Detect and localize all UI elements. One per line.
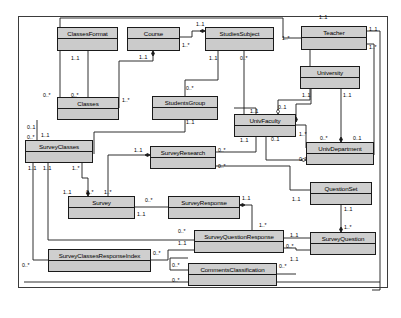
multiplicity-label: 1..1 xyxy=(290,256,298,262)
uml-class-attributes-compartment xyxy=(58,39,117,50)
multiplicity-label: 1..* xyxy=(282,35,289,41)
uml-association-e-surveyresearch-right2 xyxy=(216,166,310,190)
multiplicity-label: 0..1 xyxy=(271,136,279,142)
multiplicity-label: 0..* xyxy=(279,263,286,269)
multiplicity-label: 0..* xyxy=(218,163,225,169)
uml-class-title: ClassesFormat xyxy=(58,28,117,39)
multiplicity-label: 1..* xyxy=(72,165,79,171)
multiplicity-label: 1..1 xyxy=(186,119,194,125)
uml-association-e-surveyclasses-resp-idx xyxy=(33,163,48,260)
multiplicity-label: 0..1 xyxy=(27,124,35,130)
multiplicity-label: 1..1 xyxy=(196,21,204,27)
uml-class-attributes-compartment xyxy=(301,78,359,88)
multiplicity-label: 1..1 xyxy=(250,108,258,114)
multiplicity-label: 0..* xyxy=(172,262,179,268)
multiplicity-label: 1..* xyxy=(122,97,129,103)
multiplicity-label: 1..1 xyxy=(240,137,248,143)
uml-class-attributes-compartment xyxy=(307,154,373,164)
multiplicity-label: 1..* xyxy=(299,131,306,137)
uml-class-title: University xyxy=(301,67,359,78)
uml-class-attributes-compartment xyxy=(169,208,239,218)
multiplicity-label: 0..* xyxy=(86,189,93,195)
multiplicity-label: 1..* xyxy=(104,189,111,195)
multiplicity-label: 0..* xyxy=(218,147,225,153)
uml-class-survey-research[interactable]: SurveyResearch xyxy=(150,146,216,169)
uml-class-title: SurveyQuestionResponse xyxy=(195,231,283,242)
multiplicity-label: 1..1 xyxy=(369,26,377,32)
multiplicity-label: 1..1 xyxy=(302,92,310,98)
uml-class-title: StudiesSubject xyxy=(206,28,273,39)
uml-association-e-surveyresponse-sqr xyxy=(240,205,252,230)
multiplicity-label: 1..1 xyxy=(319,14,327,20)
uml-class-attributes-compartment xyxy=(49,261,150,271)
uml-class-university[interactable]: University xyxy=(300,66,360,89)
multiplicity-label: 0..* xyxy=(43,92,50,98)
multiplicity-label: 0..* xyxy=(153,250,160,256)
uml-class-title: UnivDepartment xyxy=(307,143,373,154)
multiplicity-label: 1..1 xyxy=(178,240,186,246)
uml-class-survey-question[interactable]: SurveyQuestion xyxy=(310,232,376,255)
multiplicity-label: 1..* xyxy=(344,224,351,230)
uml-class-attributes-compartment xyxy=(206,39,273,50)
filled-diamond-marker xyxy=(240,204,245,207)
uml-class-comments-classification[interactable]: CommentsClassification xyxy=(188,263,277,286)
uml-class-title: SurveyResponse xyxy=(169,197,239,208)
multiplicity-label: 0..* xyxy=(27,134,34,140)
uml-association-e-surveyresearch-survey xyxy=(108,155,150,196)
uml-class-attributes-compartment xyxy=(235,126,295,136)
uml-class-title: Course xyxy=(128,28,179,39)
uml-class-title: Survey xyxy=(69,197,134,208)
multiplicity-label: 1..1 xyxy=(63,189,71,195)
multiplicity-label: 1..* xyxy=(369,44,376,50)
multiplicity-label: 1..1 xyxy=(343,92,351,98)
multiplicity-label: 1..1 xyxy=(139,54,147,60)
multiplicity-label: 0..1 xyxy=(278,104,286,110)
uml-class-title: SurveyResearch xyxy=(151,147,215,158)
multiplicity-label: 1..1 xyxy=(344,206,352,212)
uml-class-univ-faculty[interactable]: UnivFaculty xyxy=(234,114,296,137)
multiplicity-label: 0..* xyxy=(178,228,185,234)
multiplicity-label: 1..1 xyxy=(71,55,79,61)
uml-class-title: Teacher xyxy=(302,27,366,38)
uml-class-students-group[interactable]: StudentsGroup xyxy=(152,96,218,120)
uml-class-attributes-compartment xyxy=(58,109,118,119)
uml-class-attributes-compartment xyxy=(69,208,134,218)
uml-class-attributes-compartment xyxy=(302,38,366,49)
uml-class-survey[interactable]: Survey xyxy=(68,196,135,219)
uml-class-classes[interactable]: Classes xyxy=(57,97,119,120)
uml-class-attributes-compartment xyxy=(311,244,375,254)
multiplicity-label: 0..* xyxy=(186,85,193,91)
multiplicity-label: 1..1 xyxy=(137,211,145,217)
multiplicity-label: 1..1 xyxy=(290,232,298,238)
uml-class-course[interactable]: Course xyxy=(127,27,180,51)
uml-class-teacher[interactable]: Teacher xyxy=(301,26,367,50)
multiplicity-label: 0..* xyxy=(145,197,152,203)
uml-class-classes-format[interactable]: ClassesFormat xyxy=(57,27,118,51)
uml-class-survey-response[interactable]: SurveyResponse xyxy=(168,196,240,219)
multiplicity-label: 0..* xyxy=(240,55,247,61)
uml-class-title: QuestionSet xyxy=(311,183,371,194)
multiplicity-label: 1..1 xyxy=(43,165,51,171)
uml-class-title: SurveyClassesResponseIndex xyxy=(49,250,150,261)
uml-class-title: Classes xyxy=(58,98,118,109)
multiplicity-label: 0..* xyxy=(320,135,327,141)
multiplicity-label: 0..* xyxy=(71,92,78,98)
multiplicity-label: 1..1 xyxy=(134,147,142,153)
multiplicity-label: 1..* xyxy=(182,42,189,48)
uml-class-survey-classes-resp-idx[interactable]: SurveyClassesResponseIndex xyxy=(48,249,151,272)
multiplicity-label: 0..1 xyxy=(353,135,361,141)
multiplicity-label: 1..1 xyxy=(41,132,49,138)
uml-class-studies-subject[interactable]: StudiesSubject xyxy=(205,27,274,51)
uml-association-e-teacher-right2 xyxy=(367,44,374,155)
multiplicity-label: 0..* xyxy=(286,243,293,249)
uml-class-survey-classes[interactable]: SurveyClasses xyxy=(25,140,93,163)
multiplicity-label: 1..1 xyxy=(242,195,250,201)
uml-class-attributes-compartment xyxy=(189,275,276,285)
uml-class-question-set[interactable]: QuestionSet xyxy=(310,182,372,205)
uml-class-diagram: ClassesFormatCourseStudiesSubjectTeacher… xyxy=(0,0,401,318)
multiplicity-label: 1..1 xyxy=(292,196,300,202)
multiplicity-label: 1..1 xyxy=(28,165,36,171)
uml-class-title: SurveyQuestion xyxy=(311,233,375,244)
uml-class-survey-question-response[interactable]: SurveyQuestionResponse xyxy=(194,230,284,253)
uml-class-univ-department[interactable]: UnivDepartment xyxy=(306,142,374,165)
